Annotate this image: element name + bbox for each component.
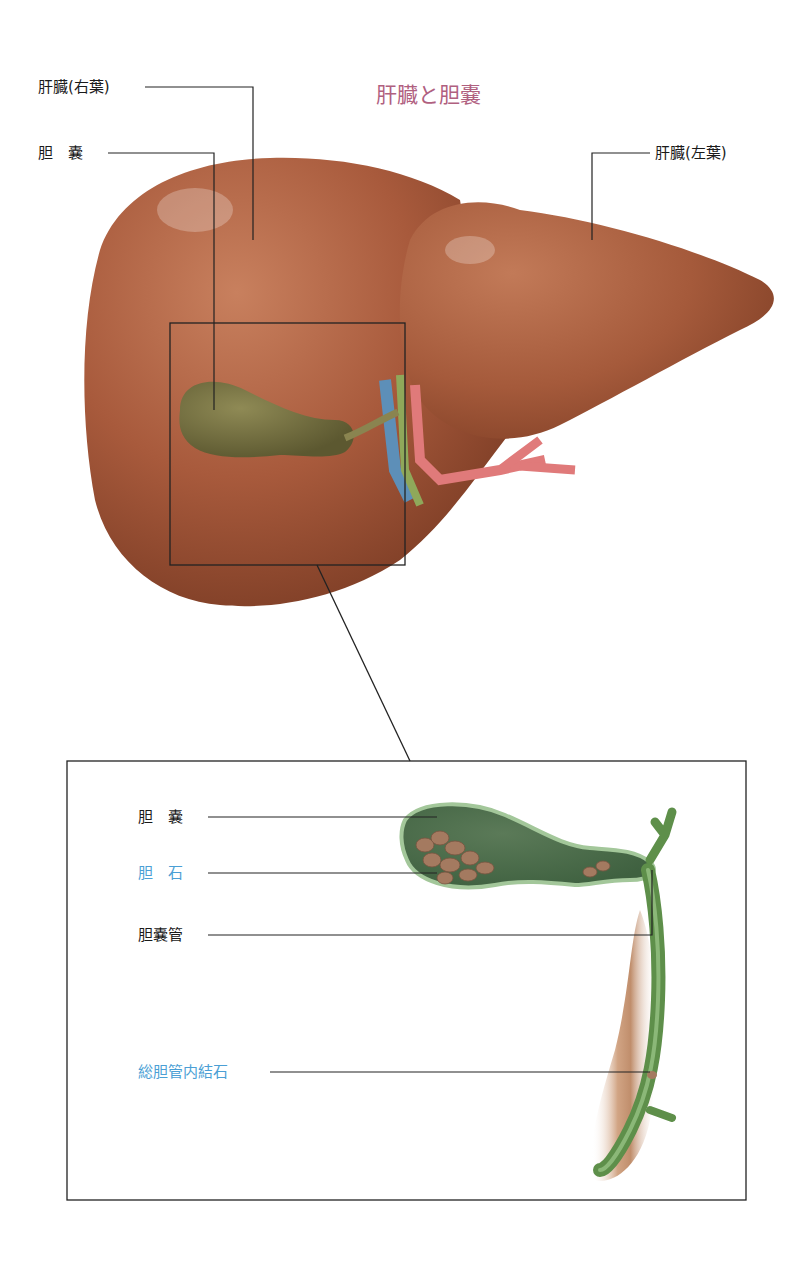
inset-gallbladder-shape (401, 804, 653, 887)
label-liver-left-lobe: 肝臓(左葉) (655, 146, 727, 161)
label-liver-right-lobe: 肝臓(右葉) (38, 80, 110, 95)
illustration (0, 0, 811, 1261)
inset-label-common-bile-duct-stone: 総胆管内結石 (138, 1065, 228, 1080)
label-gallbladder: 胆 嚢 (38, 146, 83, 161)
inset-label-gallstones: 胆 石 (138, 866, 183, 881)
zoom-connector-line (317, 565, 410, 761)
inset-label-cystic-duct: 胆嚢管 (138, 928, 183, 943)
liver-left-lobe-shape (400, 202, 774, 438)
inset-label-gallbladder: 胆 嚢 (138, 810, 183, 825)
